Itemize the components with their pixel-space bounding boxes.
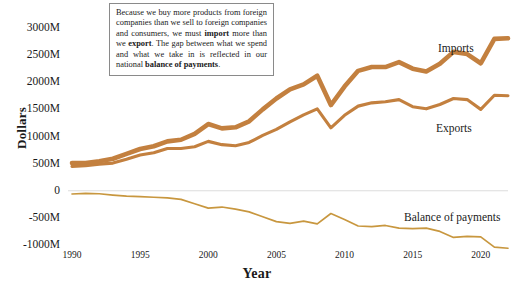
annotation-emphasis: balance of payments: [145, 60, 218, 69]
annotation-text: .: [218, 60, 220, 69]
annotation-emphasis: import: [205, 29, 230, 38]
series-label-balance-of-payments: Balance of payments: [404, 211, 500, 223]
series-label-exports: Exports: [436, 122, 472, 134]
chart-container: Dollars Year 3000M2500M2000M1500M1000M50…: [0, 0, 514, 290]
series-label-imports: Imports: [438, 42, 474, 54]
annotation-callout: Because we buy more products from foreig…: [109, 3, 274, 76]
annotation-emphasis: export: [128, 39, 151, 48]
